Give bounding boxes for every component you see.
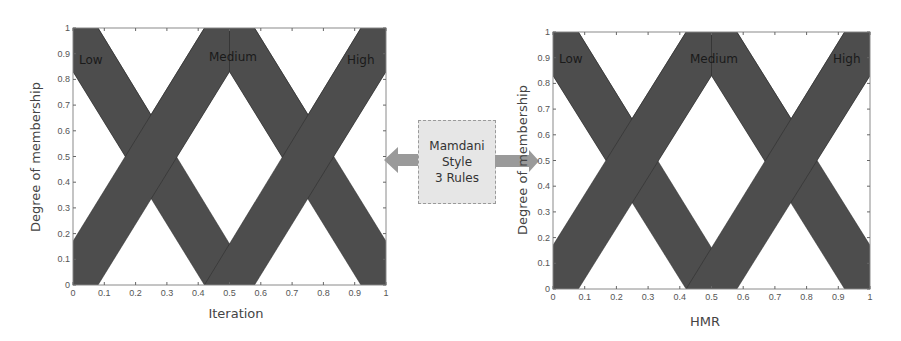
x-tick-label: 1 bbox=[867, 292, 872, 302]
y-tick-label: 0.5 bbox=[57, 152, 70, 162]
x-tick-label: 0 bbox=[550, 292, 555, 302]
y-tick-label: 0.9 bbox=[57, 49, 70, 59]
left-y-axis-label: Degree of membership bbox=[28, 82, 43, 232]
left-plot-area: 00.10.20.30.40.50.60.70.80.9100.10.20.30… bbox=[57, 23, 388, 298]
x-tick-label: 0.9 bbox=[832, 292, 845, 302]
y-tick-label: 0.9 bbox=[537, 53, 550, 63]
x-tick-label: 0.1 bbox=[98, 288, 111, 298]
y-tick-label: 0.1 bbox=[57, 254, 70, 264]
y-tick-label: 0.6 bbox=[57, 126, 70, 136]
x-tick-label: 0.1 bbox=[578, 292, 591, 302]
right-label-low: Low bbox=[559, 52, 583, 66]
y-tick-label: 0.7 bbox=[537, 104, 550, 114]
x-tick-label: 0.2 bbox=[129, 288, 142, 298]
x-tick-label: 0.4 bbox=[674, 292, 687, 302]
left-label-medium: Medium bbox=[209, 50, 257, 64]
x-tick-label: 0.7 bbox=[769, 292, 782, 302]
box-line-3: 3 Rules bbox=[435, 170, 479, 186]
y-tick-label: 0.3 bbox=[57, 203, 70, 213]
y-tick-label: 1 bbox=[545, 27, 550, 37]
right-chart-hmr: 00.10.20.30.40.50.60.70.80.9100.10.20.30… bbox=[500, 0, 901, 341]
right-plot-area: 00.10.20.30.40.50.60.70.80.9100.10.20.30… bbox=[537, 27, 872, 302]
y-tick-label: 0.5 bbox=[537, 156, 550, 166]
y-tick-label: 0.2 bbox=[537, 233, 550, 243]
x-tick-label: 0.6 bbox=[255, 288, 268, 298]
left-x-axis-label: Iteration bbox=[208, 306, 263, 321]
left-chart-svg: 00.10.20.30.40.50.60.70.80.9100.10.20.30… bbox=[0, 0, 400, 341]
left-chart-iteration: 00.10.20.30.40.50.60.70.80.9100.10.20.30… bbox=[0, 0, 400, 341]
x-tick-label: 0.8 bbox=[317, 288, 330, 298]
x-tick-label: 0.4 bbox=[192, 288, 205, 298]
x-tick-label: 0.3 bbox=[161, 288, 174, 298]
x-tick-label: 0.5 bbox=[223, 288, 236, 298]
y-tick-label: 0.7 bbox=[57, 100, 70, 110]
y-tick-label: 0.2 bbox=[57, 229, 70, 239]
y-tick-label: 0.3 bbox=[537, 207, 550, 217]
box-line-2: Style bbox=[442, 154, 472, 170]
y-tick-label: 0.4 bbox=[57, 177, 70, 187]
x-tick-label: 0.8 bbox=[800, 292, 813, 302]
x-tick-label: 0.2 bbox=[610, 292, 623, 302]
right-chart-svg: 00.10.20.30.40.50.60.70.80.9100.10.20.30… bbox=[500, 0, 901, 341]
y-tick-label: 0.6 bbox=[537, 130, 550, 140]
x-tick-label: 1 bbox=[383, 288, 388, 298]
right-label-medium: Medium bbox=[690, 52, 738, 66]
x-tick-label: 0.9 bbox=[348, 288, 361, 298]
left-arrow-icon bbox=[384, 146, 420, 174]
y-tick-label: 0 bbox=[545, 284, 550, 294]
x-tick-label: 0.7 bbox=[286, 288, 299, 298]
membership-bands bbox=[553, 32, 870, 289]
right-label-high: High bbox=[833, 52, 861, 66]
right-y-axis-label: Degree of membership bbox=[515, 85, 530, 235]
x-tick-label: 0.5 bbox=[705, 292, 718, 302]
right-x-axis-label: HMR bbox=[690, 314, 720, 329]
left-label-high: High bbox=[347, 53, 375, 67]
membership-bands bbox=[73, 28, 386, 285]
mamdani-rules-box: Mamdani Style 3 Rules bbox=[418, 120, 496, 204]
y-tick-label: 0.8 bbox=[537, 78, 550, 88]
y-tick-label: 0.4 bbox=[537, 181, 550, 191]
x-tick-label: 0.6 bbox=[737, 292, 750, 302]
y-tick-label: 0.1 bbox=[537, 258, 550, 268]
x-tick-label: 0 bbox=[70, 288, 75, 298]
x-tick-label: 0.3 bbox=[642, 292, 655, 302]
left-label-low: Low bbox=[79, 53, 103, 67]
y-tick-label: 1 bbox=[65, 23, 70, 33]
y-tick-label: 0.8 bbox=[57, 74, 70, 84]
box-line-1: Mamdani bbox=[429, 138, 484, 154]
y-tick-label: 0 bbox=[65, 280, 70, 290]
